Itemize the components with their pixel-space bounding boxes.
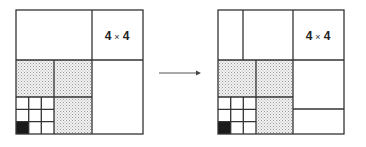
right-arrow-icon	[159, 71, 201, 76]
stippled-block-bottom-right	[54, 97, 92, 134]
stippled-block-top-right	[256, 60, 293, 97]
stippled-block-bottom-right	[256, 97, 293, 134]
block-label-before: 4×4	[105, 29, 130, 43]
stippled-block-top-left	[16, 60, 54, 97]
filled-cell	[218, 122, 231, 134]
filled-cell	[16, 122, 29, 134]
stippled-block-top-right	[54, 60, 92, 97]
stippled-block-top-left	[218, 60, 256, 97]
quadtree-diagram: 4×4 4×4	[0, 0, 366, 147]
block-label-after: 4×4	[306, 29, 331, 43]
